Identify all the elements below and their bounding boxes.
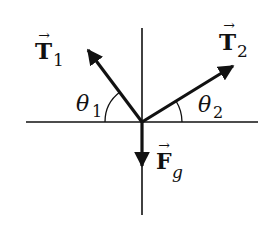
tension-1-label: → T 1 [35, 27, 64, 70]
theta-1-arc [105, 92, 120, 122]
theta-1-label: θ 1 [76, 91, 102, 121]
theta-1-symbol: θ [76, 91, 89, 116]
tension-2-subscript: 2 [237, 41, 248, 61]
theta-2-label: θ 2 [198, 92, 223, 122]
gravity-force-symbol: F [156, 148, 172, 174]
theta-1-subscript: 1 [92, 102, 102, 121]
theta-2-symbol: θ [198, 92, 211, 117]
theta-2-arc [176, 101, 182, 122]
free-body-diagram: → T 1 → T 2 → F g θ 1 θ 2 [0, 0, 275, 231]
gravity-force-subscript: g [172, 162, 183, 182]
gravity-force-label: → F g [156, 137, 183, 182]
theta-2-subscript: 2 [213, 103, 223, 122]
tension-1-symbol: T [35, 37, 52, 64]
tension-1-subscript: 1 [53, 50, 64, 70]
tension-2-label: → T 2 [219, 17, 248, 61]
tension-2-symbol: T [219, 28, 236, 55]
